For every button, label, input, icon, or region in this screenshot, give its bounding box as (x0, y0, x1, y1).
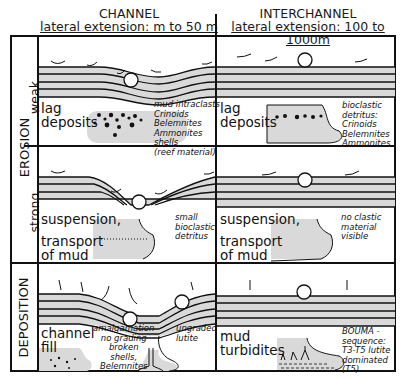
weak-interchannel-notes: bioclasticdetritus:CrinoidsBelemnitesAmm… (342, 101, 390, 149)
strong-interchannel-notes: no clasticmaterialvisible (341, 213, 381, 242)
deposition-label: DEPOSITION (16, 263, 31, 373)
channel-header: CHANNEL lateral extension: m to 50 m (40, 7, 218, 33)
strong-channel-notes: smallbioclasticdetritus (175, 213, 215, 242)
strong-channel-process: suspension, transportof mud (41, 212, 121, 262)
strong-interchannel-process: suspension, transportof mud (220, 212, 300, 262)
deposition-channel-process: channelfill (41, 326, 94, 354)
deposition-interchannel-process: mudturbidites (220, 329, 285, 357)
channel-subtitle: lateral extension: m to 50 m (40, 20, 218, 33)
deposition-interchannel-notes: BOUMA -sequence:T3-T5 lutitedominated(T5… (342, 327, 390, 375)
deposition-channel-notes-2: ungradedlutite (176, 324, 217, 343)
weak-channel-process: lagdeposits (41, 101, 98, 129)
deposition-channel-notes: amalgamationno gradingbrokenshells,Belem… (93, 324, 154, 372)
weak-interchannel-process: lagdeposits (220, 101, 277, 129)
